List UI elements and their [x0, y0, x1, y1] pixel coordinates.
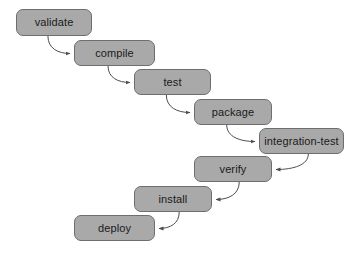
node-integration-test[interactable]: integration-test	[259, 128, 344, 154]
node-install[interactable]: install	[134, 186, 212, 212]
edge-verify-to-install	[216, 182, 239, 200]
node-deploy[interactable]: deploy	[74, 215, 155, 241]
edge-validate-to-compile	[48, 36, 70, 54]
node-label: package	[212, 107, 254, 118]
edge-test-to-package	[166, 95, 190, 113]
edge-compile-to-test	[108, 66, 130, 83]
node-label: install	[159, 194, 188, 205]
node-test[interactable]: test	[134, 69, 211, 95]
node-label: verify	[220, 164, 247, 175]
edge-package-to-integration-test	[227, 125, 255, 142]
node-compile[interactable]: compile	[74, 40, 155, 66]
node-validate[interactable]: validate	[16, 9, 92, 36]
edge-layer	[0, 0, 347, 254]
node-label: validate	[35, 17, 74, 28]
node-verify[interactable]: verify	[194, 156, 272, 182]
node-package[interactable]: package	[194, 99, 272, 125]
node-label: integration-test	[264, 136, 338, 147]
node-label: test	[163, 77, 181, 88]
diagram-canvas: validatecompiletestpackageintegration-te…	[0, 0, 347, 254]
edge-install-to-deploy	[159, 212, 179, 229]
node-label: deploy	[98, 223, 131, 234]
node-label: compile	[95, 48, 134, 59]
edge-integration-test-to-verify	[276, 154, 308, 170]
